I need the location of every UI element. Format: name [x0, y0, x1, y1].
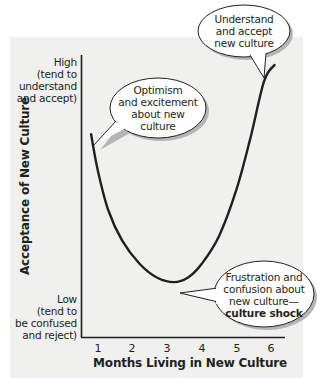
callout-understand-text: Understand and accept new culture [198, 13, 290, 49]
callout-line: Understand [198, 13, 290, 25]
x-tick: 5 [230, 342, 244, 355]
y-high-line: and accept) [6, 92, 77, 104]
x-tick: 2 [125, 342, 139, 355]
callout-line: culture [110, 120, 206, 132]
callout-line: and excitement [110, 96, 206, 108]
x-axis-title: Months Living in New Culture [90, 356, 290, 370]
x-tick: 3 [160, 342, 174, 355]
y-high-line: understand [6, 80, 77, 92]
y-low-line: be confused [6, 317, 77, 329]
y-label-high: High (tend to understand and accept) [6, 56, 77, 104]
x-tick: 6 [264, 342, 278, 355]
callout-line: new culture— [214, 295, 314, 307]
callout-line: new culture [198, 37, 290, 49]
y-axis-title: Acceptance of New Culture [18, 66, 32, 306]
callout-line: confusion about [214, 283, 314, 295]
y-low-line: and reject) [6, 329, 77, 341]
y-high-line: High [6, 56, 77, 68]
callout-line: Frustration and [214, 271, 314, 283]
y-low-line: (tend to [6, 305, 77, 317]
callout-line: and accept [198, 25, 290, 37]
y-low-line: Low [6, 293, 77, 305]
callout-frustration-text: Frustration and confusion about new cult… [214, 271, 314, 319]
x-tick: 1 [91, 342, 105, 355]
callout-line: Optimism [110, 84, 206, 96]
y-label-low: Low (tend to be confused and reject) [6, 293, 77, 341]
x-tick: 4 [195, 342, 209, 355]
callout-optimism-text: Optimism and excitement about new cultur… [110, 84, 206, 132]
culture-shock-label: culture shock [214, 307, 314, 319]
callout-line: about new [110, 108, 206, 120]
y-high-line: (tend to [6, 68, 77, 80]
